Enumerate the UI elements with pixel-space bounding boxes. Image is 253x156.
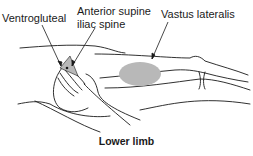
- body-outline-top: [20, 45, 125, 53]
- label-anterior-spine-line2: iliac spine: [77, 18, 125, 30]
- knee-joint-left: [199, 72, 201, 89]
- vastus-pointer: [152, 22, 168, 59]
- leg-underside: [140, 101, 250, 110]
- ventrogluteal-region: [60, 56, 78, 76]
- spine-pointer: [72, 28, 95, 66]
- arm-lower: [84, 84, 130, 125]
- torso-lower: [18, 102, 110, 117]
- label-ventrogluteal: Ventrogluteal: [2, 12, 66, 24]
- knee-joint-right: [204, 72, 206, 89]
- ventrogluteal-arrowhead: [58, 61, 62, 66]
- label-anterior-spine-line1: Anterior supine: [77, 5, 151, 17]
- injection-point-dot: [66, 67, 69, 70]
- label-vastus-lateralis: Vastus lateralis: [161, 8, 235, 20]
- figure-caption: Lower limb: [0, 135, 253, 147]
- leg-outline-top: [95, 54, 248, 75]
- hip-outline: [53, 68, 88, 112]
- vastus-lateralis-region: [119, 62, 161, 86]
